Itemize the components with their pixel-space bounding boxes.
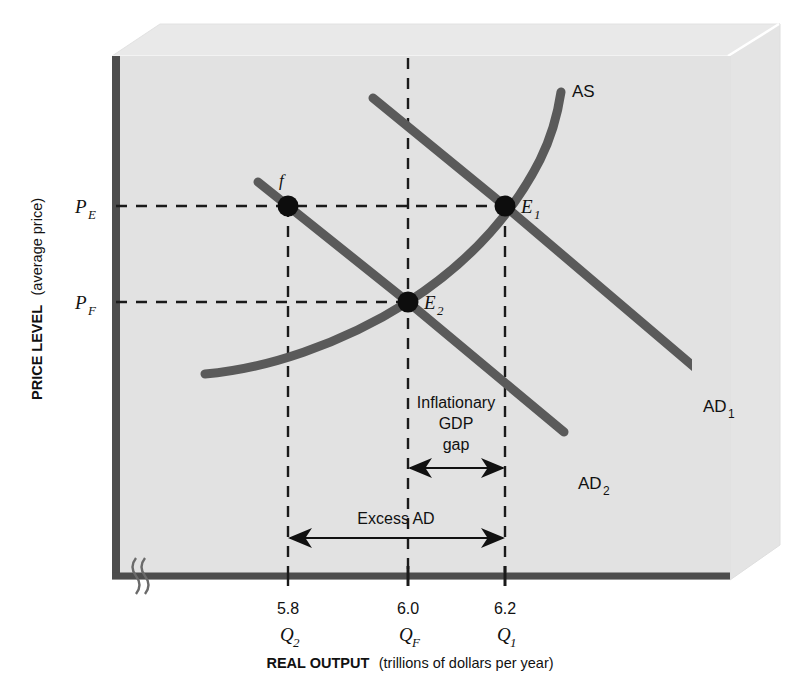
x-axis-title-bold: REAL OUTPUT [266,655,369,671]
svg-text:E: E [520,196,533,217]
annotation-line-2: GDP [439,415,474,432]
x-tick-label-q1: 6.2 Q 1 [494,600,517,650]
x-tick-label-q2: 5.8 Q 2 [277,600,300,650]
svg-text:P: P [74,196,87,217]
figure-container: f E 1 E 2 AS AD 1 AD 2 Inflationary GDP … [0,0,808,675]
annotation-line-3: gap [443,436,470,453]
svg-text:6.2: 6.2 [494,600,516,617]
y-tick-label-pe: P E [74,196,96,222]
svg-text:Q: Q [399,624,413,645]
point-marker-e2 [398,292,419,313]
svg-text:1: 1 [510,635,517,650]
svg-text:Q: Q [497,624,511,645]
svg-text:F: F [411,635,421,650]
x-tick-label-qf: 6.0 Q F [397,600,421,650]
point-marker-f [278,196,299,217]
x-axis-title: REAL OUTPUT (trillions of dollars per ye… [266,654,553,671]
svg-text:E: E [87,207,96,222]
y-axis-title-normal: (average price) [29,198,45,296]
curve-label-as: AS [572,82,595,101]
svg-text:AD: AD [703,397,727,416]
ad-as-inflationary-gap-chart: f E 1 E 2 AS AD 1 AD 2 Inflationary GDP … [0,0,808,675]
y-tick-label-pf: P F [74,292,97,318]
svg-text:2: 2 [293,635,300,650]
svg-text:5.8: 5.8 [277,600,299,617]
x-axis-title-normal: (trillions of dollars per year) [379,655,554,671]
slab-right-face [730,24,780,580]
slab-top-face [112,24,780,56]
svg-text:E: E [423,292,436,313]
svg-text:2: 2 [437,303,444,318]
svg-text:1: 1 [728,407,735,421]
svg-text:6.0: 6.0 [397,600,419,617]
svg-text:REAL OUTPUT (trillions o: REAL OUTPUT (trillions of dollars per ye… [266,654,553,671]
svg-text:Q: Q [280,624,294,645]
y-axis-title: PRICE LEVEL (average price) [28,198,45,400]
svg-text:1: 1 [534,207,541,222]
svg-text:PRICE LEVEL (average pri: PRICE LEVEL (average price) [28,198,45,400]
svg-text:2: 2 [603,484,610,498]
y-axis-title-bold: PRICE LEVEL [29,305,45,400]
svg-text:F: F [87,303,97,318]
svg-text:AD: AD [578,474,602,493]
point-marker-e1 [495,196,516,217]
annotation-line-1: Inflationary [417,394,495,411]
svg-text:P: P [74,292,87,313]
annotation-excess-ad-label: Excess AD [357,510,434,527]
